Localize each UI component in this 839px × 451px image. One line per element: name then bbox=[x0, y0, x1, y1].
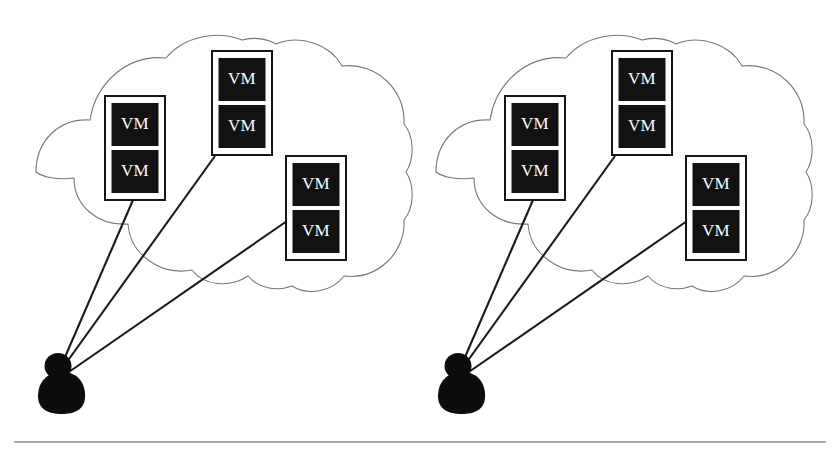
vm-cell bbox=[219, 58, 266, 101]
vm-cell bbox=[219, 105, 266, 148]
vm-cell bbox=[293, 163, 340, 206]
vm-host-right-top-middle[interactable]: VM VM bbox=[612, 51, 672, 155]
diagram-canvas: VM VM VM VM VM VM bbox=[0, 0, 839, 451]
vm-cell bbox=[293, 210, 340, 253]
user-body bbox=[38, 372, 85, 414]
vm-cell bbox=[112, 150, 159, 193]
vm-cell bbox=[619, 58, 666, 101]
user-silhouette-right[interactable] bbox=[438, 353, 485, 414]
vm-cell bbox=[112, 103, 159, 146]
vm-cell bbox=[693, 210, 740, 253]
user-body bbox=[438, 372, 485, 414]
cloud-vm-diagram: VM VM VM VM VM VM bbox=[0, 0, 839, 451]
right-cloud-group: VM VM VM VM VM VM bbox=[436, 35, 812, 414]
vm-host-right-right[interactable]: VM VM bbox=[686, 156, 746, 260]
vm-host-left-right[interactable]: VM VM bbox=[286, 156, 346, 260]
vm-cell bbox=[512, 103, 559, 146]
vm-host-left-top-middle[interactable]: VM VM bbox=[212, 51, 272, 155]
user-silhouette-left[interactable] bbox=[38, 353, 85, 414]
connector-user-to-host-1-left bbox=[62, 200, 133, 364]
vm-host-left-upper-left[interactable]: VM VM bbox=[105, 96, 165, 200]
left-cloud-group: VM VM VM VM VM VM bbox=[36, 35, 412, 414]
vm-cell bbox=[512, 150, 559, 193]
vm-cell bbox=[619, 105, 666, 148]
connector-user-to-host-1-right bbox=[462, 200, 533, 364]
vm-cell bbox=[693, 163, 740, 206]
vm-host-right-upper-left[interactable]: VM VM bbox=[505, 96, 565, 200]
